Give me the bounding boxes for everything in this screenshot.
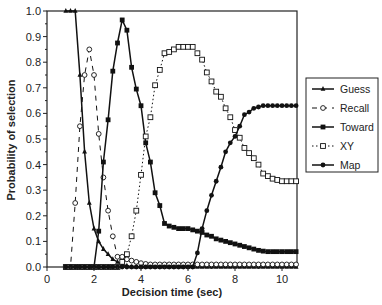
- y-tick-label: 0.1: [26, 235, 41, 247]
- y-tick-label: 0.0: [26, 261, 41, 273]
- x-tick-label: 8: [232, 273, 238, 285]
- y-tick-label: 0.9: [26, 31, 41, 43]
- x-axis-title: Decision time (sec): [122, 286, 223, 298]
- y-tick-label: 0.4: [26, 159, 41, 171]
- legend-label: XY: [340, 140, 354, 152]
- y-axis-title: Probability of selection: [5, 79, 17, 200]
- y-tick-label: 1.0: [26, 5, 41, 17]
- chart-container: 0.00.10.20.30.40.50.60.70.80.91.0 024681…: [0, 0, 382, 305]
- plot-area: [47, 8, 299, 269]
- legend: Guess Recall Toward XY Map: [306, 78, 378, 172]
- y-tick-label: 0.7: [26, 82, 41, 94]
- series-toward: [63, 18, 298, 270]
- legend-label: Guess: [340, 83, 370, 95]
- x-tick-label: 4: [138, 273, 144, 285]
- y-tick-label: 0.2: [26, 210, 41, 222]
- y-tick-label: 0.8: [26, 56, 41, 68]
- legend-label: Recall: [340, 102, 369, 114]
- x-tick-label: 0: [44, 273, 50, 285]
- legend-label: Toward: [340, 121, 374, 133]
- line-chart: 0.00.10.20.30.40.50.60.70.80.91.0 024681…: [0, 0, 382, 305]
- x-tick-label: 2: [91, 273, 97, 285]
- legend-label: Map: [340, 159, 361, 171]
- x-tick-label: 10: [276, 273, 288, 285]
- y-axis: 0.00.10.20.30.40.50.60.70.80.91.0: [26, 5, 47, 273]
- y-tick-label: 0.5: [26, 133, 41, 145]
- x-tick-label: 6: [185, 273, 191, 285]
- y-tick-label: 0.3: [26, 184, 41, 196]
- y-tick-label: 0.6: [26, 107, 41, 119]
